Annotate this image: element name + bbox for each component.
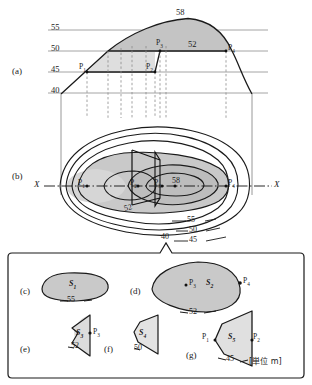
elevation-label-50: 50: [51, 43, 60, 53]
area-label-S3: S3: [76, 328, 83, 339]
area-label-S5: S5: [228, 332, 235, 343]
area-contour-label-S2: 52: [189, 307, 197, 316]
contour-label-55-b: 55: [187, 215, 195, 224]
point-label-P4-a: P4: [228, 43, 235, 54]
point-P4-a: [225, 50, 228, 53]
point-P1-g: [214, 339, 217, 342]
point-P1-b: [86, 185, 89, 188]
area-contour-label-S5: 45: [226, 354, 234, 363]
contour-label-45-b: 45: [189, 235, 197, 244]
panel-label-e: (e): [20, 344, 30, 354]
axis-label-X-right: X: [274, 179, 280, 189]
point-label-P2-a: P2: [146, 62, 153, 73]
contour-label-58-b: 58: [172, 176, 180, 185]
point-label-P1-g: P1: [202, 332, 209, 343]
point-P3-a: [159, 50, 162, 53]
contour-label-40-b: 40: [161, 232, 169, 241]
topographic-volume-figure: [0, 0, 312, 385]
area-contour-label-S3: 52: [71, 341, 79, 350]
point-label-P3-e: P3: [93, 327, 100, 338]
peak-label-58-a: 58: [176, 7, 185, 17]
point-P3-e: [88, 331, 91, 334]
panel-label-c: (c): [20, 286, 30, 296]
point-P2-a: [154, 71, 157, 74]
point-label-P1-b: P1: [78, 178, 85, 189]
contour-label-50-b: 50: [189, 225, 197, 234]
area-contour-label-S1: 55: [67, 295, 75, 304]
point-label-P2-b: P2: [130, 178, 137, 189]
area-contour-label-S4: 50: [134, 343, 142, 352]
section-fill-45-50: [87, 51, 132, 72]
area-label-S2: S2: [206, 278, 213, 289]
point-label-P3-a: P3: [156, 38, 163, 49]
point-label-P3-b: P3: [154, 178, 161, 189]
section-fill-above-52: [108, 19, 231, 51]
elevation-label-45: 45: [51, 64, 60, 74]
point-label-P2-g: P2: [253, 332, 260, 343]
area-label-S1: S1: [69, 279, 76, 290]
area-label-S4: S4: [139, 328, 146, 339]
point-label-P4-d: P4: [243, 276, 250, 287]
point-P1-a: [86, 71, 89, 74]
axis-label-X-left: X: [34, 179, 40, 189]
point-P3-d: [185, 284, 188, 287]
elevation-label-55: 55: [51, 22, 60, 32]
point-label-P1-a: P1: [79, 62, 86, 73]
panel-label-g: (g): [186, 350, 197, 360]
elevation-label-40: 40: [51, 85, 60, 95]
panel-label-b: (b): [12, 171, 23, 181]
leader-45-right: [206, 237, 226, 241]
point-label-P4-b: P4: [228, 178, 235, 189]
panel-label-d: (d): [130, 286, 141, 296]
unit-note: [単位 m]: [249, 355, 282, 366]
bench-label-52-a: 52: [188, 39, 197, 49]
panel-label-f: (f): [104, 344, 113, 354]
point-label-P3-d: P3: [189, 278, 196, 289]
point-P4-d: [238, 281, 242, 285]
chord-riser: [155, 51, 160, 72]
panel-label-a: (a): [12, 66, 22, 76]
projection-lines: [87, 46, 226, 118]
